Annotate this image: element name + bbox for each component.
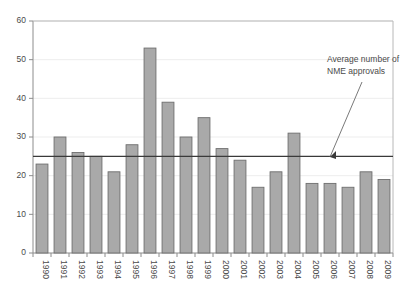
bar — [90, 156, 102, 253]
chart-canvas: 0102030405060 19901991199219931994199519… — [0, 0, 411, 298]
x-tick-label: 1994 — [113, 260, 123, 279]
x-tick-label: 1991 — [59, 260, 69, 279]
bar — [144, 48, 156, 253]
x-tick-label: 1998 — [185, 260, 195, 279]
x-tick-label: 2009 — [383, 260, 393, 279]
bar — [72, 152, 84, 253]
annotation-text-line-2: NME approvals — [327, 66, 385, 76]
y-axis-ticks: 0102030405060 — [17, 15, 33, 257]
x-axis-labels: 1990199119921993199419951996199719981999… — [41, 260, 393, 279]
x-tick-label: 2007 — [347, 260, 357, 279]
bar — [126, 145, 138, 253]
x-tick-label: 2003 — [275, 260, 285, 279]
bar — [378, 180, 390, 253]
x-tick-label: 1990 — [41, 260, 51, 279]
x-tick-label: 1996 — [149, 260, 159, 279]
x-tick-label: 1992 — [77, 260, 87, 279]
y-tick-label: 60 — [17, 15, 27, 25]
y-tick-label: 10 — [17, 209, 27, 219]
x-tick-label: 1995 — [131, 260, 141, 279]
bar — [252, 187, 264, 253]
x-tick-label: 2006 — [329, 260, 339, 279]
y-tick-label: 40 — [17, 93, 27, 103]
x-axis-ticks — [33, 253, 393, 257]
bar-chart-nme-approvals: 0102030405060 19901991199219931994199519… — [0, 0, 411, 298]
x-tick-label: 2001 — [239, 260, 249, 279]
bar — [36, 164, 48, 253]
bar — [198, 118, 210, 253]
bar — [270, 172, 282, 253]
x-tick-label: 1999 — [203, 260, 213, 279]
x-tick-label: 2004 — [293, 260, 303, 279]
bar — [306, 183, 318, 253]
bar — [180, 137, 192, 253]
x-tick-label: 2002 — [257, 260, 267, 279]
x-tick-label: 1993 — [95, 260, 105, 279]
x-tick-label: 2005 — [311, 260, 321, 279]
bar — [288, 133, 300, 253]
bar — [108, 172, 120, 253]
y-tick-label: 20 — [17, 170, 27, 180]
bar — [54, 137, 66, 253]
y-tick-label: 50 — [17, 54, 27, 64]
bar — [360, 172, 372, 253]
bar — [162, 102, 174, 253]
annotation-text-line-1: Average number of — [327, 54, 400, 64]
x-tick-label: 2008 — [365, 260, 375, 279]
bar — [234, 160, 246, 253]
bar — [324, 183, 336, 253]
bar — [342, 187, 354, 253]
x-tick-label: 2000 — [221, 260, 231, 279]
x-tick-label: 1997 — [167, 260, 177, 279]
y-tick-label: 30 — [17, 131, 27, 141]
y-tick-label: 0 — [21, 247, 26, 257]
bar — [216, 149, 228, 253]
